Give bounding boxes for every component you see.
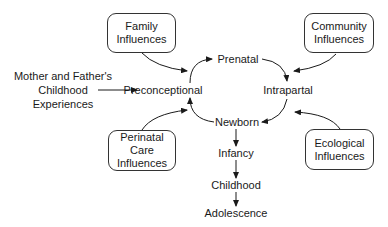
community-arrow <box>294 54 336 71</box>
box-label: Influences <box>116 33 166 46</box>
family-influences-box: Family Influences <box>107 13 176 53</box>
label-line: Childhood <box>14 83 112 97</box>
box-label: Influences <box>314 33 364 46</box>
label-line: Mother and Father's <box>14 69 112 83</box>
intrapartal-to-newborn-arrow <box>262 99 287 122</box>
box-label: Influences <box>117 157 167 170</box>
box-label: Influences <box>314 150 364 163</box>
box-label: Ecological <box>314 137 364 150</box>
stage-intrapartal: Intrapartal <box>263 84 313 97</box>
newborn-to-preconceptional-arrow <box>190 98 214 122</box>
life-course-diagram: Family Influences Community Influences P… <box>0 0 388 227</box>
box-label: Perinatal <box>120 131 163 144</box>
ecological-influences-box: Ecological Influences <box>305 129 374 170</box>
box-label: Family <box>125 20 157 33</box>
perinatal-care-influences-box: Perinatal Care Influences <box>108 130 176 171</box>
stage-infancy: Infancy <box>218 147 253 160</box>
preconceptional-to-prenatal-arrow <box>190 59 212 83</box>
ecological-arrow <box>295 112 340 129</box>
box-label: Community <box>311 20 367 33</box>
family-arrow <box>142 53 187 71</box>
box-label: Care <box>130 144 154 157</box>
prenatal-to-intrapartal-arrow <box>262 59 287 81</box>
stage-childhood: Childhood <box>211 179 261 192</box>
community-influences-box: Community Influences <box>304 13 374 53</box>
childhood-experiences-label: Mother and Father's Childhood Experience… <box>14 69 112 111</box>
stage-prenatal: Prenatal <box>218 53 259 66</box>
stage-adolescence: Adolescence <box>205 207 268 220</box>
perinatal-care-arrow <box>142 110 187 130</box>
label-line: Experiences <box>14 97 112 111</box>
stage-newborn: Newborn <box>215 116 259 129</box>
stage-preconceptional: Preconceptional <box>124 84 203 97</box>
